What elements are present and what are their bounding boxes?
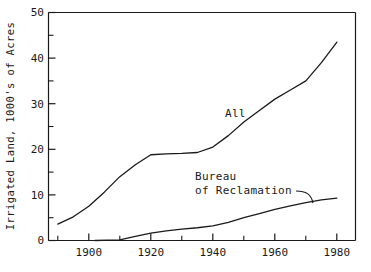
y-tick-label-20: 20 — [31, 143, 44, 156]
line-chart: 0 10 20 30 40 50 1900 1920 1940 1960 198… — [0, 0, 371, 272]
series-line-bureau — [95, 198, 337, 240]
x-axis-minor-ticks — [58, 236, 306, 241]
y-axis-tick-labels: 0 10 20 30 40 50 — [31, 6, 44, 247]
y-tick-label-40: 40 — [31, 52, 44, 65]
y-axis-minor-ticks — [49, 35, 54, 217]
x-tick-label-1900: 1900 — [76, 246, 103, 259]
y-tick-label-50: 50 — [31, 6, 44, 19]
x-tick-label-1960: 1960 — [262, 246, 289, 259]
chart-figure: 0 10 20 30 40 50 1900 1920 1940 1960 198… — [0, 0, 371, 272]
x-axis-major-ticks — [89, 234, 337, 241]
x-axis-tick-labels: 1900 1920 1940 1960 1980 — [76, 246, 351, 259]
y-tick-label-10: 10 — [31, 189, 44, 202]
y-axis-title: Irrigated Land, 1000's of Acres — [4, 22, 16, 230]
annotation-bureau-line1: Bureau — [195, 170, 237, 183]
y-tick-label-30: 30 — [31, 98, 44, 111]
annotation-bureau-line2: of Reclamation — [195, 184, 292, 197]
x-tick-label-1920: 1920 — [138, 246, 165, 259]
annotation-all: All — [225, 107, 246, 120]
x-tick-label-1980: 1980 — [324, 246, 351, 259]
x-tick-label-1940: 1940 — [200, 246, 227, 259]
y-tick-label-0: 0 — [37, 234, 44, 247]
plot-frame — [49, 13, 356, 241]
